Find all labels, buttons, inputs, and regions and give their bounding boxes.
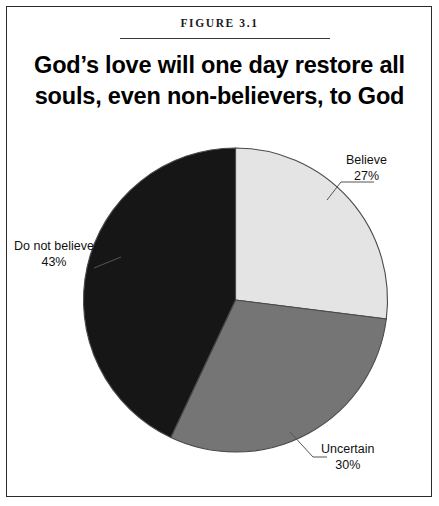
slice-label-uncertain-name: Uncertain [321,442,375,456]
slice-label-do-not-believe: Do not believe 43% [14,238,94,271]
slice-label-believe: Believe 27% [346,152,387,185]
figure-page: Figure 3.1 God’s love will one day resto… [0,0,439,506]
slice-label-uncertain: Uncertain 30% [321,441,375,474]
slice-label-uncertain-pct: 30% [321,457,375,473]
slice-label-believe-name: Believe [346,153,387,167]
slice-label-believe-pct: 27% [346,168,387,184]
slice-label-do-not-believe-pct: 43% [14,254,94,270]
slice-label-do-not-believe-name: Do not believe [14,239,94,253]
